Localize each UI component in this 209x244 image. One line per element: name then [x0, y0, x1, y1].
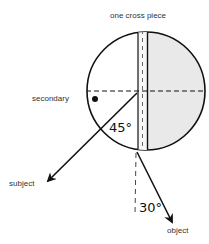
subject-arrow — [48, 93, 137, 181]
label-object: object — [167, 226, 188, 235]
label-subject: subject — [9, 179, 34, 188]
vertical-reference-line — [135, 153, 136, 216]
label-one-cross-piece: one cross piece — [110, 11, 166, 20]
label-secondary: secondary — [32, 94, 69, 103]
cross-piece-diagram — [0, 0, 209, 244]
secondary-dot — [92, 96, 98, 102]
angle-45: 45° — [109, 120, 132, 135]
angle-30: 30° — [139, 200, 162, 215]
